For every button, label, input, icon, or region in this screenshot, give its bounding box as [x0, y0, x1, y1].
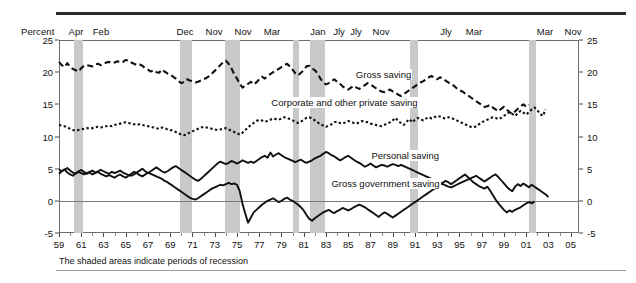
x-tick-mark	[293, 233, 294, 236]
y-tick-label-left: 5	[48, 163, 53, 174]
y-tick-mark-left	[55, 40, 59, 41]
x-tick-mark	[281, 233, 282, 237]
x-tick-label: 77	[254, 239, 265, 250]
series-line	[59, 152, 548, 197]
x-tick-mark	[248, 233, 249, 236]
series-line	[59, 169, 535, 222]
y-tick-mark-right	[579, 104, 583, 105]
x-tick-mark	[204, 233, 205, 236]
x-tick-label: 71	[187, 239, 198, 250]
y-tick-label-right: -5	[587, 228, 595, 239]
x-tick-label: 63	[98, 239, 109, 250]
recession-month-tag: Nov	[373, 26, 390, 37]
x-tick-mark	[515, 233, 516, 236]
x-tick-mark	[337, 233, 338, 236]
series-label: Gross saving	[355, 69, 412, 80]
x-tick-mark	[448, 233, 449, 236]
y-tick-label-left: 25	[42, 35, 53, 46]
x-tick-label: 99	[499, 239, 510, 250]
y-tick-label-right: 10	[587, 131, 598, 142]
x-tick-mark	[59, 233, 60, 237]
x-tick-label: 01	[521, 239, 532, 250]
x-tick-mark	[426, 233, 427, 236]
recession-month-tag: Jly	[440, 26, 452, 37]
x-tick-mark	[92, 233, 93, 236]
x-tick-label: 95	[454, 239, 465, 250]
y-tick-mark-right	[579, 168, 583, 169]
x-tick-mark	[493, 233, 494, 236]
x-tick-label: 03	[543, 239, 554, 250]
x-tick-label: 69	[165, 239, 176, 250]
x-tick-mark	[537, 233, 538, 236]
x-tick-mark	[81, 233, 82, 237]
x-tick-mark	[215, 233, 216, 237]
x-tick-mark	[115, 233, 116, 236]
y-tick-mark-left	[55, 136, 59, 137]
recession-month-tag: Feb	[93, 26, 109, 37]
y-tick-label-right: 5	[587, 163, 592, 174]
x-tick-mark	[315, 233, 316, 236]
y-tick-label-right: 25	[587, 35, 598, 46]
x-tick-mark	[482, 233, 483, 237]
bottom-rule	[56, 270, 626, 271]
x-tick-mark	[226, 233, 227, 236]
x-tick-label: 65	[120, 239, 131, 250]
x-tick-mark	[326, 233, 327, 237]
x-tick-label: 61	[76, 239, 87, 250]
chart-footnote: The shaded areas indicate periods of rec…	[59, 256, 248, 266]
x-tick-mark	[237, 233, 238, 237]
x-tick-mark	[181, 233, 182, 236]
y-tick-label-left: 0	[48, 195, 53, 206]
recession-month-tag: Jly	[333, 26, 345, 37]
x-tick-mark	[437, 233, 438, 237]
x-tick-mark	[404, 233, 405, 236]
y-tick-mark-left	[55, 200, 59, 201]
x-tick-mark	[70, 233, 71, 236]
x-tick-mark	[348, 233, 349, 237]
series-lines	[59, 40, 579, 233]
x-tick-mark	[137, 233, 138, 236]
x-tick-mark	[415, 233, 416, 237]
recession-month-tag: Mar	[264, 26, 280, 37]
recession-month-tag: Nov	[206, 26, 223, 37]
x-tick-mark	[571, 233, 572, 237]
x-tick-label: 83	[321, 239, 332, 250]
x-tick-mark	[259, 233, 260, 237]
recession-month-tag: Nov	[235, 26, 252, 37]
y-tick-mark-right	[579, 200, 583, 201]
series-label: Personal saving	[370, 150, 440, 161]
x-tick-label: 91	[410, 239, 421, 250]
x-tick-label: 87	[365, 239, 376, 250]
y-tick-mark-right	[579, 233, 583, 234]
y-tick-label-right: 0	[587, 195, 592, 206]
recession-month-tag: Mar	[466, 26, 482, 37]
x-tick-label: 81	[298, 239, 309, 250]
x-tick-mark	[304, 233, 305, 237]
y-tick-mark-left	[55, 104, 59, 105]
x-tick-mark	[359, 233, 360, 236]
y-tick-mark-left	[55, 72, 59, 73]
series-label: Gross government saving	[330, 178, 440, 189]
x-tick-label: 79	[276, 239, 287, 250]
y-tick-label-right: 20	[587, 67, 598, 78]
recession-month-tag: Mar	[537, 26, 553, 37]
x-tick-label: 85	[343, 239, 354, 250]
series-line	[59, 108, 546, 136]
top-rule	[56, 12, 626, 15]
x-tick-label: 89	[387, 239, 398, 250]
y-tick-mark-right	[579, 72, 583, 73]
y-tick-label-right: 15	[587, 99, 598, 110]
x-tick-mark	[192, 233, 193, 237]
x-tick-label: 73	[209, 239, 220, 250]
y-tick-mark-right	[579, 40, 583, 41]
x-tick-label: 93	[432, 239, 443, 250]
x-tick-label: 97	[476, 239, 487, 250]
x-tick-mark	[382, 233, 383, 236]
y-tick-label-left: 20	[42, 67, 53, 78]
x-tick-mark	[170, 233, 171, 237]
chart-plot-area: Gross savingCorporate and other private …	[59, 40, 579, 233]
recession-month-tag: Apr	[69, 26, 84, 37]
x-tick-mark	[560, 233, 561, 236]
x-tick-mark	[126, 233, 127, 237]
recession-month-tag: Dec	[177, 26, 194, 37]
